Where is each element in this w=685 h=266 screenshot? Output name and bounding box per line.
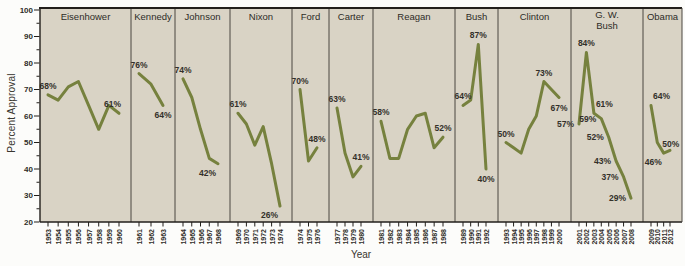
data-label: 70% xyxy=(291,76,308,86)
x-tick-label: 1994 xyxy=(511,229,518,245)
data-label: 48% xyxy=(308,134,325,144)
y-tick-label: 100 xyxy=(20,6,34,15)
data-label: 50% xyxy=(662,139,679,149)
data-label: 50% xyxy=(497,129,514,139)
x-tick-label: 1971 xyxy=(252,229,259,245)
x-tick-label: 1989 xyxy=(460,229,467,245)
data-label: 67% xyxy=(550,103,567,113)
data-label: 59% xyxy=(579,114,596,124)
x-tick-label: 2008 xyxy=(628,229,635,245)
x-tick-label: 1974 xyxy=(277,229,284,245)
x-tick-label: 1997 xyxy=(533,229,540,245)
x-tick-label: 2002 xyxy=(583,229,590,245)
panel-title: Reagan xyxy=(397,11,430,22)
x-tick-label: 2007 xyxy=(621,229,628,245)
data-label: 64% xyxy=(653,91,670,101)
x-tick-label: 1966 xyxy=(198,229,205,245)
data-label: 52% xyxy=(587,132,604,142)
panel-title: Kennedy xyxy=(134,11,172,22)
data-label: 63% xyxy=(328,94,345,104)
figure: Percent Approval Year 100908070605040302… xyxy=(0,0,685,266)
x-tick-label: 1993 xyxy=(503,229,510,245)
x-tick-label: 1970 xyxy=(243,229,250,245)
y-axis: 1009080706050403020 xyxy=(20,6,40,227)
y-tick-label: 30 xyxy=(24,191,33,200)
panel-title: Carter xyxy=(338,11,364,22)
x-tick-label: 1959 xyxy=(106,229,113,245)
panel-title: Johnson xyxy=(185,11,221,22)
x-tick-label: 1984 xyxy=(405,229,412,245)
data-label: 52% xyxy=(434,123,451,133)
x-tick-label: 1964 xyxy=(180,229,187,245)
data-label: 46% xyxy=(645,157,662,167)
panel-title: Nixon xyxy=(249,11,273,22)
data-label: 26% xyxy=(261,210,278,220)
x-tick-label: 1955 xyxy=(65,229,72,245)
data-label: 43% xyxy=(594,156,611,166)
data-label: 76% xyxy=(130,60,147,70)
x-tick-label: 1977 xyxy=(334,229,341,245)
x-tick-label: 2004 xyxy=(598,229,605,245)
y-tick-label: 40 xyxy=(24,165,33,174)
x-tick-label: 1978 xyxy=(342,229,349,245)
panel-title: Eisenhower xyxy=(61,11,111,22)
x-tick-label: 1999 xyxy=(548,229,555,245)
data-label: 61% xyxy=(596,99,613,109)
x-tick-label: 2001 xyxy=(576,229,583,245)
x-tick-label: 2000 xyxy=(556,229,563,245)
x-tick-label: 1974 xyxy=(297,229,304,245)
x-tick-label: 1995 xyxy=(518,229,525,245)
x-tick-label: 1960 xyxy=(116,229,123,245)
approval-chart: 1009080706050403020Eisenhower68%61%19531… xyxy=(0,0,685,266)
x-tick-label: 1988 xyxy=(440,229,447,245)
x-tick-label: 2005 xyxy=(606,229,613,245)
data-label: 73% xyxy=(535,68,552,78)
x-tick-label: 1965 xyxy=(189,229,196,245)
data-label: 87% xyxy=(470,30,487,40)
data-label: 74% xyxy=(174,65,191,75)
x-tick-label: 1972 xyxy=(260,229,267,245)
x-tick-label: 1990 xyxy=(468,229,475,245)
data-label: 61% xyxy=(104,99,121,109)
x-tick-label: 2012 xyxy=(667,229,674,245)
panel-title: Clinton xyxy=(520,11,550,22)
data-label: 64% xyxy=(454,91,471,101)
x-tick-label: 1954 xyxy=(55,229,62,245)
data-label: 29% xyxy=(609,193,626,203)
data-label: 41% xyxy=(352,152,369,162)
data-label: 64% xyxy=(154,110,171,120)
x-tick-label: 1958 xyxy=(96,229,103,245)
y-tick-label: 70 xyxy=(24,85,33,94)
panel-title: Obama xyxy=(647,11,679,22)
x-tick-label: 1992 xyxy=(483,229,490,245)
panel-title: Bush xyxy=(466,11,488,22)
x-tick-label: 1969 xyxy=(235,229,242,245)
y-tick-label: 90 xyxy=(24,32,33,41)
x-tick-label: 1962 xyxy=(148,229,155,245)
data-label: 57% xyxy=(557,119,574,129)
data-label: 84% xyxy=(578,38,595,48)
x-tick-label: 1957 xyxy=(86,229,93,245)
x-tick-label: 1967 xyxy=(206,229,213,245)
x-tick-label: 1983 xyxy=(396,229,403,245)
data-label: 40% xyxy=(477,174,494,184)
y-tick-label: 50 xyxy=(24,138,33,147)
x-tick-label: 2003 xyxy=(591,229,598,245)
x-tick-label: 1956 xyxy=(75,229,82,245)
x-tick-label: 1982 xyxy=(387,229,394,245)
x-tick-label: 1991 xyxy=(475,229,482,245)
x-tick-label: 1979 xyxy=(350,229,357,245)
x-tick-label: 1985 xyxy=(413,229,420,245)
x-tick-label: 1998 xyxy=(541,229,548,245)
panel-title: G. W.Bush xyxy=(595,9,619,31)
data-label: 68% xyxy=(39,81,56,91)
x-tick-label: 1963 xyxy=(160,229,167,245)
x-tick-label: 2006 xyxy=(613,229,620,245)
x-tick-label: 1981 xyxy=(378,229,385,245)
x-tick-label: 1968 xyxy=(215,229,222,245)
panel-title: Ford xyxy=(301,11,321,22)
data-label: 37% xyxy=(602,172,619,182)
x-tick-label: 1976 xyxy=(314,229,321,245)
x-tick-label: 1986 xyxy=(422,229,429,245)
x-tick-label: 1953 xyxy=(45,229,52,245)
